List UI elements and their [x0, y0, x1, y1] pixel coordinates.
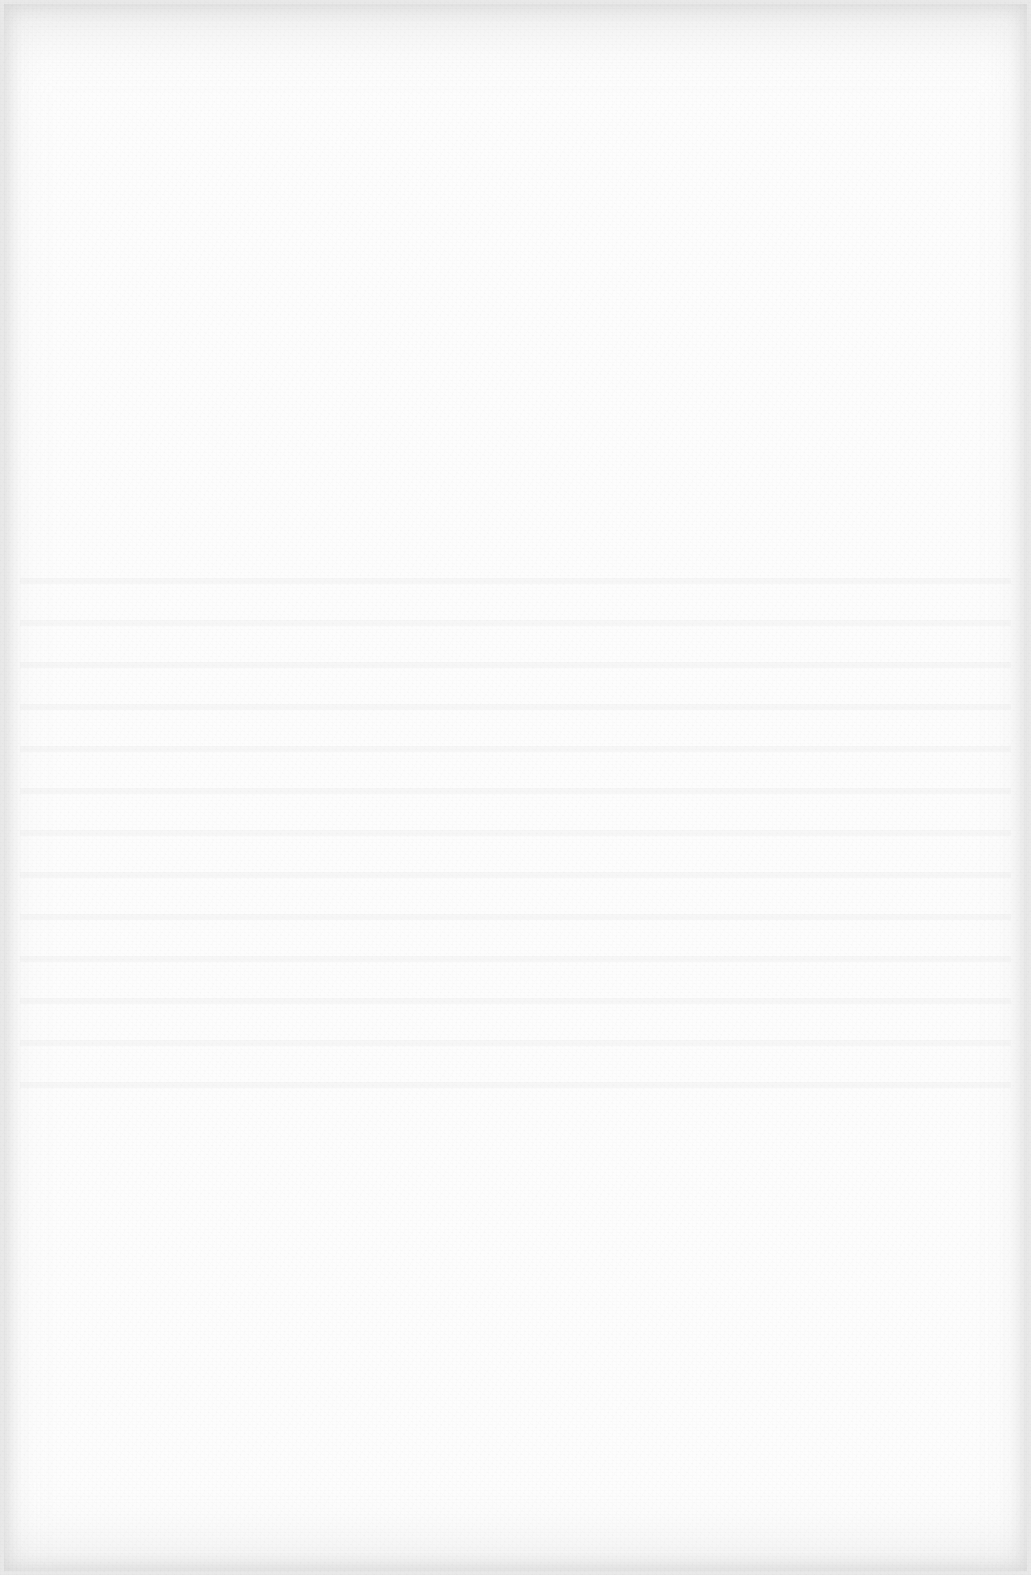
faint-bleed-through [20, 560, 1011, 1100]
paper-texture [0, 0, 1031, 1575]
blank-scanned-page [0, 0, 1031, 1575]
